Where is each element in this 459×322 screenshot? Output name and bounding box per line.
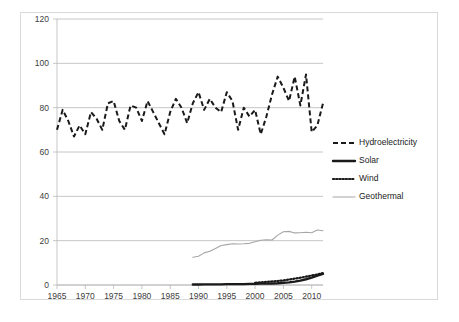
y-axis-tick-label: 120 <box>35 14 49 24</box>
y-axis-tick-label: 40 <box>40 191 50 201</box>
series-line-hydroelectricity <box>57 74 323 136</box>
y-axis-tick-label: 20 <box>40 236 50 246</box>
x-axis-tick-label: 1980 <box>132 291 151 299</box>
series-lines <box>57 74 323 284</box>
x-axis <box>57 285 323 289</box>
chart-legend: HydroelectricitySolarWindGeothermal <box>333 137 418 201</box>
line-chart: 020406080100120 196519701975198019851990… <box>21 13 437 299</box>
x-axis-tick-label: 2005 <box>274 291 293 299</box>
y-axis-tick-labels: 020406080100120 <box>35 14 49 290</box>
legend-label-hydroelectricity: Hydroelectricity <box>359 137 418 147</box>
x-axis-tick-label: 1995 <box>217 291 236 299</box>
x-axis-tick-label: 1985 <box>161 291 180 299</box>
x-axis-tick-label: 1965 <box>48 291 67 299</box>
x-axis-tick-label: 2010 <box>302 291 321 299</box>
x-axis-tick-label: 1990 <box>189 291 208 299</box>
series-line-geothermal <box>193 230 323 257</box>
y-axis-tick-label: 100 <box>35 58 49 68</box>
x-axis-tick-label: 1975 <box>104 291 123 299</box>
chart-container: 020406080100120 196519701975198019851990… <box>20 12 438 300</box>
x-axis-tick-label: 2000 <box>246 291 265 299</box>
y-axis-tick-label: 60 <box>40 147 50 157</box>
x-axis-tick-labels: 1965197019751980198519901995200020052010 <box>48 291 322 299</box>
y-axis <box>53 19 57 285</box>
gridlines <box>57 19 323 285</box>
legend-label-wind: Wind <box>359 173 379 183</box>
legend-label-solar: Solar <box>359 155 379 165</box>
legend-label-geothermal: Geothermal <box>359 191 404 201</box>
y-axis-tick-label: 0 <box>44 280 49 290</box>
y-axis-tick-label: 80 <box>40 103 50 113</box>
x-axis-tick-label: 1970 <box>76 291 95 299</box>
